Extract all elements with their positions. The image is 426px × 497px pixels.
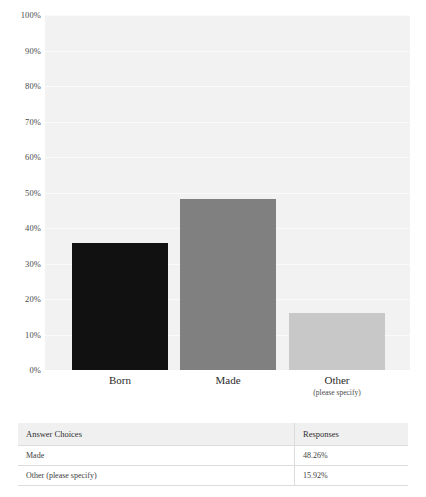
y-axis-tick-label: 80% xyxy=(25,81,41,91)
y-axis-tick-label: 70% xyxy=(25,117,41,127)
y-axis-tick-label: 100% xyxy=(21,10,41,20)
cell-response-percent: 15.92% xyxy=(295,466,409,486)
bar-born[interactable] xyxy=(72,243,168,370)
y-axis-tick-label: 40% xyxy=(25,223,41,233)
column-header-answer-choices: Answer Choices xyxy=(18,423,295,446)
bar-other[interactable] xyxy=(289,313,385,370)
y-axis-tick-label: 10% xyxy=(25,330,41,340)
gridline xyxy=(45,15,410,16)
x-axis-label-other: Other(please specify) xyxy=(267,374,407,398)
cell-answer-choice: Other (please specify) xyxy=(18,466,295,486)
table-header-row: Answer Choices Responses xyxy=(18,423,408,446)
y-axis-tick-label: 30% xyxy=(25,259,41,269)
x-axis: BornMadeOther(please specify) xyxy=(45,374,410,410)
gridline xyxy=(45,86,410,87)
gridline xyxy=(45,193,410,194)
table-row: Made48.26% xyxy=(18,446,408,466)
y-axis-tick-label: 0% xyxy=(29,365,41,375)
gridline xyxy=(45,157,410,158)
chart-plot-area xyxy=(45,15,410,370)
x-axis-label-text: Other xyxy=(324,374,349,386)
gridline xyxy=(45,122,410,123)
cell-answer-choice: Made xyxy=(18,446,295,466)
y-axis-tick-label: 50% xyxy=(25,188,41,198)
y-axis: 100%90%80%70%60%50%40%30%20%10%0% xyxy=(0,15,41,370)
cell-response-percent: 48.26% xyxy=(295,446,409,466)
bar-chart-figure: 100%90%80%70%60%50%40%30%20%10%0% BornMa… xyxy=(0,0,426,412)
answer-choices-table: Answer Choices Responses Made48.26%Other… xyxy=(18,423,408,486)
x-axis-label-text: Born xyxy=(109,374,131,386)
table-header: Answer Choices Responses xyxy=(18,423,408,446)
y-axis-tick-label: 20% xyxy=(25,294,41,304)
gridline xyxy=(45,51,410,52)
x-axis-sublabel-text: (please specify) xyxy=(267,388,407,398)
table-row: Other (please specify)15.92% xyxy=(18,466,408,486)
bar-made[interactable] xyxy=(180,199,276,370)
y-axis-tick-label: 60% xyxy=(25,152,41,162)
x-axis-label-text: Made xyxy=(215,374,240,386)
y-axis-tick-label: 90% xyxy=(25,46,41,56)
column-header-responses: Responses xyxy=(295,423,409,446)
table-body: Made48.26%Other (please specify)15.92% xyxy=(18,446,408,486)
